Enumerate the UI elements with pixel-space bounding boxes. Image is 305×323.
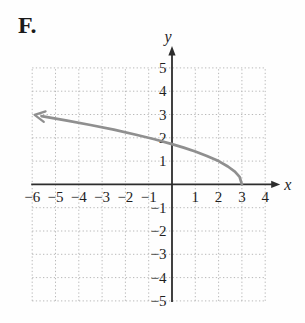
- y-tick-label: 5: [159, 60, 167, 76]
- y-tick-label: 3: [159, 107, 167, 123]
- y-tick-label: 4: [159, 83, 167, 99]
- x-axis-letter: x: [283, 176, 291, 193]
- x-tick-label: −6: [24, 189, 40, 205]
- x-tick-label: −5: [48, 189, 64, 205]
- x-tick-label: −3: [94, 189, 110, 205]
- figure-panel: F. −6−5−4−3−2−11234−5−4−3−2−112345xy: [0, 0, 305, 323]
- y-axis-letter: y: [162, 28, 172, 46]
- x-tick-label: 2: [215, 189, 223, 205]
- y-tick-label: −3: [151, 246, 167, 262]
- y-tick-label: −2: [151, 223, 167, 239]
- x-axis-arrowhead: [271, 181, 280, 188]
- x-tick-labels: −6−5−4−3−2−11234: [24, 189, 269, 205]
- y-tick-label: −1: [151, 200, 167, 216]
- x-tick-label: −4: [71, 189, 87, 205]
- y-tick-label: −4: [151, 270, 167, 286]
- x-tick-label: 3: [238, 189, 246, 205]
- x-tick-label: −2: [117, 189, 133, 205]
- x-tick-label: 1: [192, 189, 200, 205]
- axes: [31, 46, 280, 302]
- y-tick-label: −5: [151, 293, 167, 309]
- y-tick-label: 1: [159, 153, 167, 169]
- curve-sqrt: [42, 116, 242, 184]
- y-axis-arrowhead: [168, 46, 175, 56]
- x-tick-label: 4: [261, 189, 269, 205]
- coordinate-plane: −6−5−4−3−2−11234−5−4−3−2−112345xy: [0, 0, 305, 323]
